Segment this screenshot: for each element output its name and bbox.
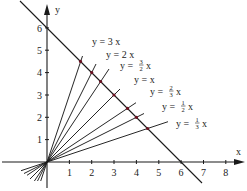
svg-text:2: 2 <box>89 167 94 178</box>
svg-text:x: x <box>188 101 193 112</box>
svg-text:2: 2 <box>140 65 143 72</box>
label-y-eq-3-2x: y = 3 2 x <box>120 58 151 73</box>
svg-text:4: 4 <box>37 67 42 78</box>
ray-y-eq-x <box>30 89 120 179</box>
svg-text:x: x <box>176 86 181 97</box>
coordinate-diagram: x y 1 2 3 4 5 6 7 8 1 2 3 4 5 6 <box>0 0 247 191</box>
svg-text:3: 3 <box>37 90 42 101</box>
svg-text:1: 1 <box>37 134 42 145</box>
intersection-1-3x <box>146 127 149 130</box>
svg-text:3: 3 <box>196 123 199 130</box>
y-tick-labels: 1 2 3 4 5 6 <box>37 23 42 146</box>
svg-text:y =: y = <box>120 60 134 71</box>
svg-text:1: 1 <box>196 116 199 123</box>
svg-text:7: 7 <box>201 167 206 178</box>
intersection-2x <box>90 71 93 74</box>
svg-text:5: 5 <box>156 167 161 178</box>
svg-text:x: x <box>146 60 151 71</box>
ray-labels: y = 3 x y = 2 x y = 3 2 x y = x y = 2 3 … <box>92 36 207 130</box>
label-y-eq-x: y = x <box>134 74 155 85</box>
ray-y-eq-1-3x <box>21 122 168 171</box>
svg-text:6: 6 <box>37 23 42 34</box>
svg-text:x: x <box>202 118 207 129</box>
svg-text:2: 2 <box>182 106 185 113</box>
label-y-eq-2-3x: y = 2 3 x <box>150 84 181 99</box>
svg-text:y =: y = <box>162 101 176 112</box>
svg-text:6: 6 <box>179 167 184 178</box>
svg-text:1: 1 <box>67 167 72 178</box>
intersection-3-2x <box>99 80 102 83</box>
ray-y-eq-1-2x <box>24 114 144 174</box>
y-axis-arrow-icon <box>44 4 50 15</box>
x-axis-arrow-icon <box>234 159 245 165</box>
x-axis-label: x <box>236 146 241 157</box>
svg-text:2: 2 <box>170 84 173 91</box>
intersection-3x <box>79 60 82 63</box>
label-y-eq-3x: y = 3 x <box>92 36 120 47</box>
svg-text:3: 3 <box>140 58 143 65</box>
y-axis-label: y <box>55 4 60 15</box>
svg-text:3: 3 <box>170 91 173 98</box>
intersection-2-3x <box>126 107 129 110</box>
svg-text:4: 4 <box>134 167 139 178</box>
x-tick-labels: 1 2 3 4 5 6 7 8 <box>67 167 228 178</box>
svg-text:3: 3 <box>112 167 117 178</box>
svg-text:y =: y = <box>176 118 190 129</box>
svg-text:5: 5 <box>37 45 42 56</box>
svg-text:2: 2 <box>37 112 42 123</box>
ray-y-eq-3-2x <box>34 69 109 181</box>
label-y-eq-1-2x: y = 1 2 x <box>162 99 193 114</box>
intersection-1-2x <box>135 116 138 119</box>
intersection-x <box>112 93 115 96</box>
label-y-eq-1-3x: y = 1 3 x <box>176 116 207 131</box>
ray-y-eq-2-3x <box>27 103 136 176</box>
svg-text:8: 8 <box>223 167 228 178</box>
svg-text:y =: y = <box>150 86 164 97</box>
label-y-eq-2x: y = 2 x <box>106 49 134 60</box>
svg-text:1: 1 <box>182 99 185 106</box>
